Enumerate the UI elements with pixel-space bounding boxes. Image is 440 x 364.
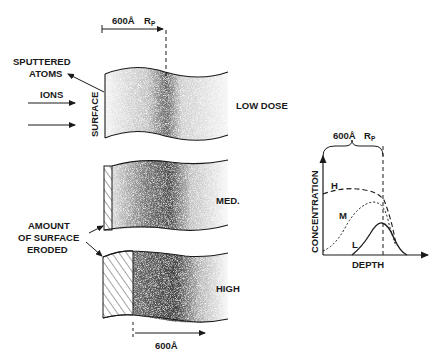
surface-label: SURFACE [89, 92, 100, 137]
panel-low-dose: LOW DOSE [105, 67, 288, 140]
eroded-region [104, 166, 112, 230]
y-axis-label: CONCENTRATION [309, 170, 320, 253]
svg-text:AMOUNT: AMOUNT [28, 220, 70, 231]
ions-label-group: IONS [28, 89, 75, 125]
series-label-M: M [339, 210, 347, 221]
svg-text:SPUTTERED: SPUTTERED [13, 56, 71, 67]
panel-label-high: HIGH [216, 283, 240, 294]
panel-high: HIGH [103, 251, 240, 323]
series-L [352, 223, 407, 255]
eroded-region [103, 251, 133, 318]
top-range-label: 600Å [112, 15, 135, 26]
ion-implantation-diagram: 600Å RP LOW DOSE SPUTTERED ATOMS IONS SU… [0, 0, 440, 364]
series-label-L: L [352, 239, 358, 250]
series-M [323, 202, 396, 251]
concentration-depth-chart: 600Å RP CONCENTRATION DEPTH H M L [309, 130, 428, 270]
svg-text:IONS: IONS [40, 89, 63, 100]
panel-label-med: MED. [216, 195, 240, 206]
series-H [323, 189, 396, 245]
chart-rp-label: RP [364, 130, 376, 142]
panel-label-low: LOW DOSE [236, 100, 288, 111]
svg-text:OF SURFACE: OF SURFACE [18, 232, 79, 243]
range-bracket [323, 140, 383, 156]
amount-eroded-callout: AMOUNT OF SURFACE ERODED [18, 220, 103, 256]
svg-text:ATOMS: ATOMS [29, 68, 62, 79]
panel-med: MED. [104, 160, 240, 230]
top-rp-label: RP [144, 15, 156, 27]
chart-bracket-label: 600Å [333, 130, 356, 141]
series-label-H: H [331, 180, 338, 191]
svg-text:600Å: 600Å [155, 340, 178, 351]
svg-text:ERODED: ERODED [27, 244, 68, 255]
x-axis-label: DEPTH [352, 259, 384, 270]
bottom-range-marker: 600Å [133, 322, 205, 351]
sputtered-atoms-callout: SPUTTERED ATOMS [13, 56, 104, 92]
